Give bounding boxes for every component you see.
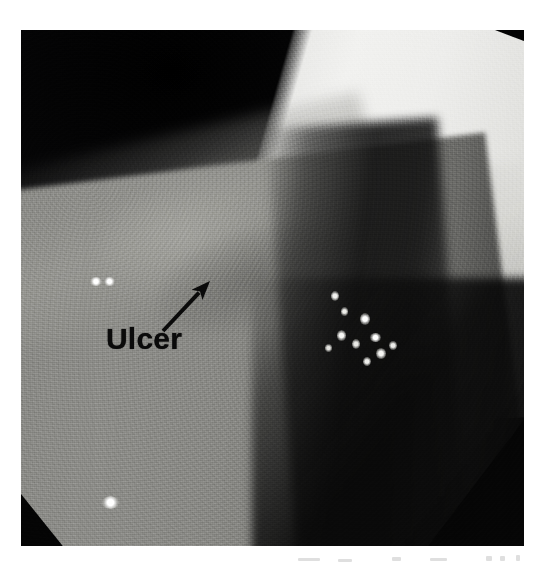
- figure-root: Ulcer: [0, 0, 538, 565]
- artifact-mark-2: [338, 559, 352, 562]
- artifact-mark-7: [516, 555, 520, 561]
- artifact-mark-1: [298, 558, 320, 561]
- artifact-mark-3: [392, 557, 401, 561]
- artifact-mark-5: [486, 556, 492, 561]
- ulcer-label: Ulcer: [106, 324, 182, 354]
- scan-artifact-strip: [0, 552, 538, 565]
- artifact-mark-6: [500, 556, 505, 561]
- annotation-overlay: Ulcer: [0, 0, 538, 565]
- ulcer-pointer-arrow-icon: [0, 0, 538, 565]
- artifact-mark-4: [430, 558, 447, 561]
